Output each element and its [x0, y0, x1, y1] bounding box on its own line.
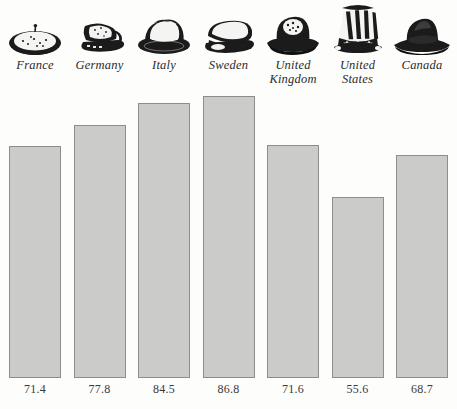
bar-value-germany: 77.8 [71, 382, 129, 397]
country-label-line1: United [323, 58, 393, 72]
country-label-france: France [0, 58, 70, 72]
bar-united-states [332, 197, 384, 378]
chart-column-united-states: United States 55.6 [329, 0, 387, 409]
bar-area-germany [71, 96, 129, 378]
bar-chart: France 71.4 [0, 0, 457, 409]
country-label-germany: Germany [65, 58, 135, 72]
bar-area-united-states [329, 96, 387, 378]
chart-column-united-kingdom: United Kingdom 71.6 [264, 0, 322, 409]
bar-area-united-kingdom [264, 96, 322, 378]
country-label-line1: France [0, 58, 70, 72]
bar-canada [396, 155, 448, 378]
bar-value-united-states: 55.6 [329, 382, 387, 397]
flat-cap-hat-icon [200, 0, 258, 56]
bar-area-france [6, 96, 64, 378]
chart-column-sweden: Sweden 86.8 [200, 0, 258, 409]
country-label-line2: Kingdom [258, 72, 328, 86]
bar-value-italy: 84.5 [135, 382, 193, 397]
bar-france [9, 146, 61, 378]
country-label-line1: Sweden [194, 58, 264, 72]
country-label-line2: States [323, 72, 393, 86]
bar-value-canada: 68.7 [393, 382, 451, 397]
chart-column-germany: Germany 77.8 [71, 0, 129, 409]
bar-value-france: 71.4 [6, 382, 64, 397]
bar-value-united-kingdom: 71.6 [264, 382, 322, 397]
chart-columns: France 71.4 [0, 0, 457, 409]
chart-column-italy: Italy 84.5 [135, 0, 193, 409]
beret-hat-icon [6, 0, 64, 56]
bar-value-sweden: 86.8 [200, 382, 258, 397]
bar-united-kingdom [267, 145, 319, 378]
uncle-sam-top-hat-icon [329, 0, 387, 56]
country-label-sweden: Sweden [194, 58, 264, 72]
fedora-hat-icon [135, 0, 193, 56]
peaked-cap-hat-icon [71, 0, 129, 56]
country-label-italy: Italy [129, 58, 199, 72]
bar-area-sweden [200, 96, 258, 378]
bar-italy [138, 103, 190, 378]
country-label-line1: United [258, 58, 328, 72]
bowler-hat-icon [264, 0, 322, 56]
mountie-hat-icon [393, 0, 451, 56]
country-label-line1: Italy [129, 58, 199, 72]
bar-germany [74, 125, 126, 378]
bar-area-canada [393, 96, 451, 378]
chart-column-france: France 71.4 [6, 0, 64, 409]
country-label-united-kingdom: United Kingdom [258, 58, 328, 86]
country-label-united-states: United States [323, 58, 393, 86]
chart-column-canada: Canada 68.7 [393, 0, 451, 409]
country-label-canada: Canada [387, 58, 457, 72]
bar-area-italy [135, 96, 193, 378]
country-label-line1: Canada [387, 58, 457, 72]
country-label-line1: Germany [65, 58, 135, 72]
bar-sweden [203, 96, 255, 378]
